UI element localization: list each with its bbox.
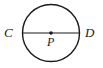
geometry-figure: C D P — [0, 0, 103, 68]
point-label-p: P — [47, 36, 54, 48]
point-label-d: D — [85, 26, 94, 39]
point-label-c: C — [4, 26, 13, 39]
